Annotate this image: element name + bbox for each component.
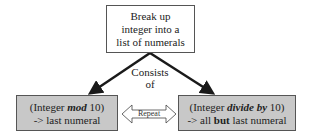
divide-box: (Integer divide by 10) -> all but last n… [178, 95, 296, 131]
top-box-line-3: list of numerals [107, 36, 194, 49]
divide-line2-prefix: -> all [187, 114, 213, 126]
mod-suffix: 10) [87, 101, 104, 113]
divide-box-line-1: (Integer divide by 10) [179, 101, 295, 114]
divide-line2-suffix: last numeral [230, 114, 287, 126]
mod-keyword: mod [67, 101, 87, 113]
consists-of-label: Consists of [130, 66, 170, 90]
mod-box: (Integer mod 10) -> last numeral [16, 95, 118, 131]
divide-suffix: 10) [267, 101, 284, 113]
but-keyword: but [214, 114, 230, 126]
divide-box-line-2: -> all but last numeral [179, 114, 295, 127]
mod-box-line-1: (Integer mod 10) [17, 101, 117, 114]
mod-prefix: (Integer [30, 101, 68, 113]
divide-prefix: (Integer [190, 101, 228, 113]
top-box-line-1: Break up [107, 10, 194, 23]
mod-box-line-2: -> last numeral [17, 114, 117, 127]
consists-label-line-2: of [130, 78, 170, 90]
top-box-line-2: integer into a [107, 23, 194, 36]
divide-keyword: divide by [227, 101, 267, 113]
consists-label-line-1: Consists [130, 66, 170, 78]
repeat-label: Repeat [135, 109, 163, 118]
break-up-integer-box: Break up integer into a list of numerals [106, 5, 195, 53]
